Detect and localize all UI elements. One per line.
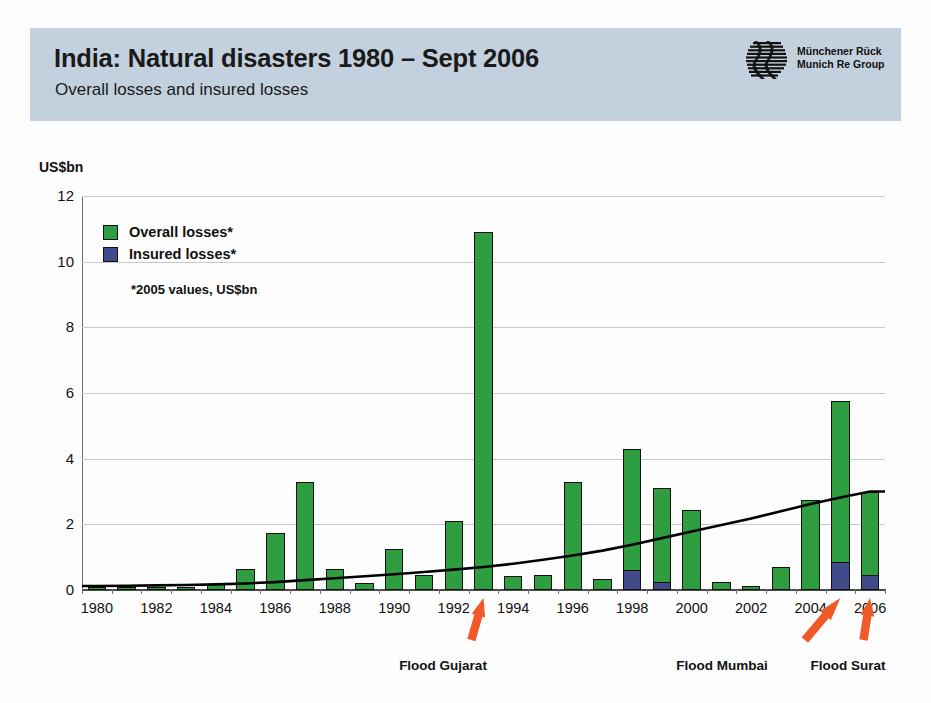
slide-canvas: India: Natural disasters 1980 – Sept 200… (0, 0, 931, 703)
annotation-arrow-2006 (0, 0, 931, 703)
annotation-label-2006: Flood Surat (811, 658, 886, 673)
arrow-icon (859, 598, 874, 641)
